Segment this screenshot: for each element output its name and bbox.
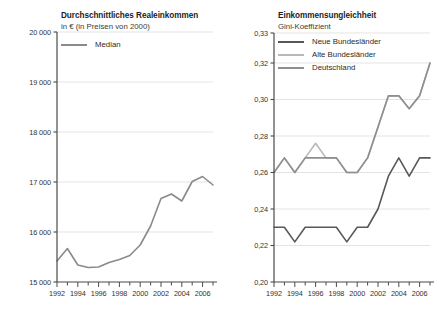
- y-tick-label: 19 000: [5, 78, 51, 87]
- series-line-deutschland: [274, 63, 430, 173]
- y-tick-label: 17 000: [5, 178, 51, 187]
- series-line-alte-bundesl-nder: [274, 63, 430, 173]
- y-tick-label: 0,20: [222, 278, 268, 287]
- y-tick-label: 0,26: [222, 168, 268, 177]
- y-tick-label: 18 000: [5, 128, 51, 137]
- right-chart-plot-area: [222, 0, 439, 311]
- y-tick-label: 0,30: [222, 95, 268, 104]
- x-tick-label: 2006: [189, 289, 217, 298]
- left-chart-plot-area: [0, 0, 222, 311]
- chart-panel-real-income: Durchschnittliches Realeinkommen in € (i…: [0, 0, 222, 311]
- right-chart-svg: [222, 0, 439, 311]
- x-tick-label: 2006: [406, 289, 434, 298]
- y-tick-label: 0,24: [222, 205, 268, 214]
- y-tick-label: 0,32: [222, 59, 268, 68]
- y-tick-label: 16 000: [5, 228, 51, 237]
- y-tick-label: 20 000: [5, 28, 51, 37]
- y-tick-label: 15 000: [5, 278, 51, 287]
- y-tick-label: 0,33: [222, 29, 268, 38]
- y-tick-label: 0,22: [222, 241, 268, 250]
- series-line-median: [57, 177, 213, 268]
- series-line-neue-bundesl-nder: [274, 158, 430, 242]
- figure-root: Durchschnittliches Realeinkommen in € (i…: [0, 0, 439, 311]
- chart-panel-income-inequality: Einkommensungleichheit Gini-Koeffizient …: [222, 0, 439, 311]
- y-tick-label: 0,28: [222, 132, 268, 141]
- left-chart-svg: [0, 0, 222, 311]
